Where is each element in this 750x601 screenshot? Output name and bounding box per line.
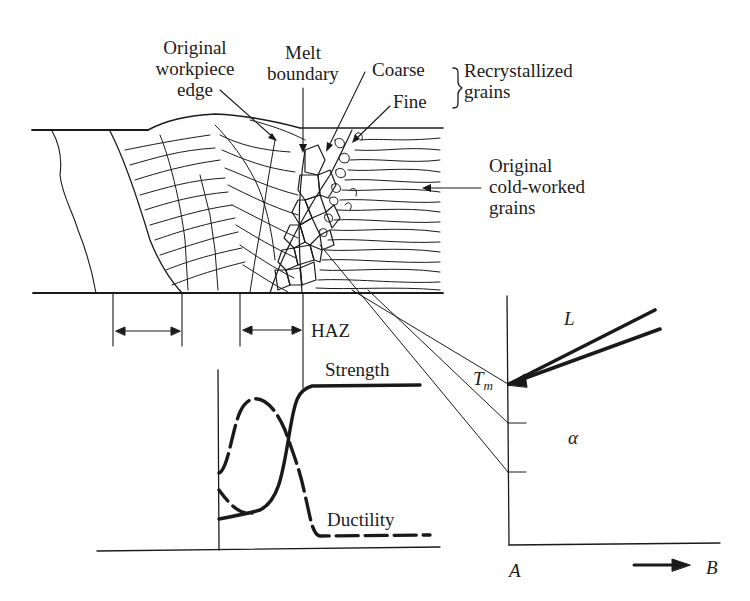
cold-worked-grains [316, 138, 440, 290]
label-original-workpiece-edge: Original workpiece edge [140, 37, 250, 100]
label-coarse: Coarse [372, 59, 425, 80]
ductility-curve-lower [219, 490, 252, 513]
tm-subscript: m [484, 378, 493, 393]
property-graph-x-axis [97, 547, 440, 551]
label-line: edge [140, 79, 250, 100]
recrystallized-fine-grains [319, 133, 362, 237]
label-line: Recrystallized [464, 60, 573, 81]
leader-fine [355, 106, 390, 140]
label-original-cold-worked-grains: Original cold-worked grains [489, 155, 585, 218]
label-line: Melt [258, 42, 348, 63]
label-line: boundary [258, 63, 348, 84]
label-tm: Tm [473, 368, 493, 391]
label-line: grains [464, 81, 573, 102]
label-melt-boundary: Melt boundary [258, 42, 348, 84]
label-line: Original [140, 37, 250, 58]
composition-arrow-head [672, 559, 690, 571]
solidus-line [509, 329, 660, 384]
strength-curve [219, 385, 420, 519]
recrystallized-coarse-grains [275, 145, 340, 290]
label-recrystallized-grains: Recrystallized grains [464, 60, 573, 102]
label-haz: HAZ [311, 320, 350, 341]
label-alpha: α [568, 427, 578, 448]
phase-diagram-x-axis [509, 543, 720, 545]
label-line: Original [489, 155, 585, 176]
label-strength: Strength [325, 359, 389, 380]
label-fine: Fine [393, 91, 427, 112]
label-component-a: A [509, 560, 521, 581]
ductility-curve [219, 399, 430, 536]
label-line: cold-worked [489, 176, 585, 197]
label-ductility: Ductility [327, 509, 395, 530]
fusion-outer-boundary [110, 131, 182, 293]
columnar-grains [125, 120, 305, 292]
haz-markers [113, 293, 303, 388]
label-line: grains [489, 197, 585, 218]
label-line: workpiece [140, 58, 250, 79]
property-graph-y-axis [218, 370, 219, 550]
phase-diagram-y-axis [507, 296, 509, 545]
workpiece-left-edge [52, 131, 96, 293]
liquidus-line [509, 310, 655, 384]
label-component-b: B [706, 557, 718, 578]
label-liquid-l: L [564, 308, 575, 329]
recrystallized-brace [453, 68, 462, 108]
weld-bead-crown [148, 114, 443, 130]
tm-symbol: T [473, 368, 484, 389]
tm-arrowhead [508, 374, 527, 387]
